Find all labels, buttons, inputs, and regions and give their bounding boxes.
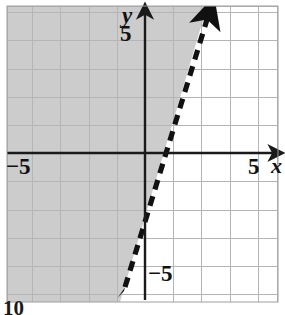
page-number: 10	[3, 298, 24, 315]
y-tick-label-neg5: −5	[148, 262, 173, 285]
y-tick-label-5: 5	[120, 22, 132, 45]
x-tick-label-neg5: −5	[6, 155, 31, 178]
x-tick-label-5: 5	[248, 155, 260, 178]
graph-figure: y 5 −5 5 x −5 10	[0, 0, 285, 315]
coordinate-plane	[0, 0, 285, 315]
x-axis-label: x	[271, 155, 282, 177]
